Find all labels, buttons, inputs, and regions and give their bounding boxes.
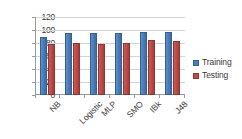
bar-training: [165, 32, 172, 95]
plot-area: [35, 17, 185, 95]
bar-training: [40, 37, 47, 96]
x-axis-labels: NB Logistic MLP SMO IBk J48: [35, 98, 185, 138]
legend-swatch-icon: [193, 60, 199, 66]
bar-group: [85, 17, 110, 95]
bar-group: [35, 17, 60, 95]
bar-group: [160, 17, 185, 95]
bar-group: [60, 17, 85, 95]
bar-group: [110, 17, 135, 95]
bar-testing: [148, 40, 155, 95]
bar-training: [140, 32, 147, 95]
legend-label: Training: [202, 58, 232, 67]
bar-training: [115, 33, 122, 95]
chart-legend: Training Testing: [193, 58, 232, 80]
bar-chart: 120 100 80 60 40 20 0: [0, 0, 242, 139]
bar-testing: [123, 43, 130, 95]
bar-training: [90, 33, 97, 95]
bar-testing: [98, 44, 105, 95]
x-tick-label: J48: [172, 99, 189, 116]
bar-groups: [35, 17, 185, 95]
bar-testing: [73, 43, 80, 95]
legend-item-testing[interactable]: Testing: [193, 71, 232, 80]
legend-swatch-icon: [193, 73, 199, 79]
bar-group: [135, 17, 160, 95]
bar-training: [65, 33, 72, 95]
bar-testing: [173, 41, 180, 95]
bar-testing: [48, 44, 55, 95]
legend-item-training[interactable]: Training: [193, 58, 232, 67]
legend-label: Testing: [202, 71, 228, 80]
